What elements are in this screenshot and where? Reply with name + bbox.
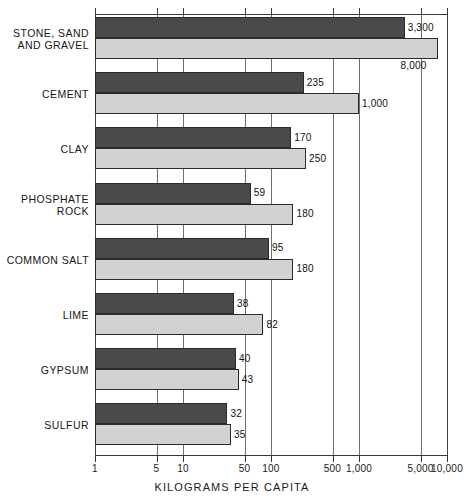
tick-bottom-1 [95, 455, 96, 462]
bar [95, 348, 236, 369]
bar-value-label: 250 [309, 153, 326, 164]
x-tick-label: 5 [154, 463, 160, 474]
category-label: PHOSPHATE ROCK [21, 193, 89, 217]
gridline-1000 [359, 14, 360, 455]
tick-top-5 [157, 8, 158, 15]
category-label: GYPSUM [41, 364, 89, 376]
x-axis-title: KILOGRAMS PER CAPITA [0, 481, 464, 493]
x-tick-label: 5,000 [407, 463, 433, 474]
tick-bottom-5 [157, 455, 158, 462]
category-label: COMMON SALT [7, 254, 89, 266]
bar [95, 259, 293, 280]
gridline-10000 [447, 14, 448, 455]
tick-bottom-5000 [421, 455, 422, 462]
x-tick-label: 10,000 [431, 463, 463, 474]
bar [95, 72, 304, 93]
bar [95, 403, 227, 424]
bar-value-label: 8,000 [400, 60, 426, 71]
tick-bottom-10000 [447, 455, 448, 462]
x-tick-label: 1 [92, 463, 98, 474]
bar-value-label: 1,000 [362, 98, 388, 109]
bar [95, 17, 405, 38]
tick-top-5000 [421, 8, 422, 15]
tick-top-10000 [447, 8, 448, 15]
bar-value-label: 170 [294, 132, 311, 143]
category-label: STONE, SAND AND GRAVEL [13, 27, 89, 51]
x-tick-label: 10 [177, 463, 189, 474]
category-label: CEMENT [42, 88, 89, 100]
chart-container: STONE, SAND AND GRAVELCEMENTCLAYPHOSPHAT… [0, 0, 464, 504]
bar [95, 369, 239, 390]
tick-bottom-50 [245, 455, 246, 462]
bar [95, 127, 291, 148]
bar-value-label: 59 [254, 187, 266, 198]
category-label: CLAY [61, 143, 89, 155]
bar-value-label: 235 [307, 77, 324, 88]
bar [95, 148, 306, 169]
tick-top-1000 [359, 8, 360, 15]
tick-bottom-10 [183, 455, 184, 462]
x-tick-label: 100 [262, 463, 279, 474]
tick-bottom-100 [271, 455, 272, 462]
x-tick-label: 500 [324, 463, 341, 474]
tick-bottom-1000 [359, 455, 360, 462]
bar-value-label: 35 [234, 429, 246, 440]
bar-value-label: 38 [237, 298, 249, 309]
gridline-500 [333, 14, 334, 455]
tick-top-1 [95, 8, 96, 15]
bar [95, 293, 234, 314]
bar [95, 183, 251, 204]
bar [95, 204, 293, 225]
bar [95, 38, 438, 59]
category-axis-labels: STONE, SAND AND GRAVELCEMENTCLAYPHOSPHAT… [0, 0, 89, 504]
gridline-5000 [421, 14, 422, 455]
bar-value-label: 82 [266, 319, 278, 330]
tick-top-500 [333, 8, 334, 15]
tick-bottom-500 [333, 455, 334, 462]
bar-value-label: 180 [296, 263, 313, 274]
bar [95, 238, 269, 259]
x-tick-label: 50 [239, 463, 251, 474]
tick-top-100 [271, 8, 272, 15]
x-tick-label: 1,000 [346, 463, 372, 474]
bar-value-label: 43 [242, 374, 254, 385]
bar [95, 93, 359, 114]
bar [95, 424, 231, 445]
bar-value-label: 180 [296, 208, 313, 219]
bar-value-label: 40 [239, 353, 251, 364]
plot-area [95, 14, 447, 455]
bar-value-label: 95 [272, 242, 284, 253]
bar-value-label: 3,300 [408, 22, 434, 33]
tick-top-10 [183, 8, 184, 15]
tick-top-50 [245, 8, 246, 15]
bar [95, 314, 263, 335]
category-label: SULFUR [44, 419, 89, 431]
category-label: LIME [63, 309, 89, 321]
bar-value-label: 32 [230, 408, 242, 419]
